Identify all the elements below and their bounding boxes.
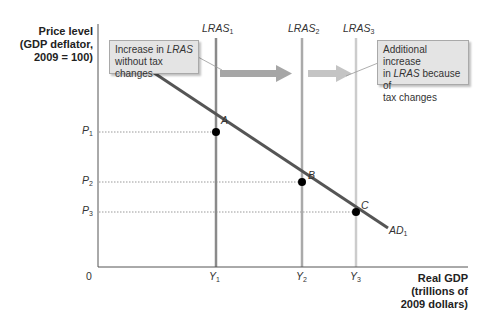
y1-label: Y1 bbox=[209, 270, 220, 283]
ad1-curve bbox=[130, 57, 388, 228]
callout2-leader bbox=[346, 63, 378, 76]
callout1-leader bbox=[198, 57, 222, 70]
p3-label: P3 bbox=[82, 204, 93, 217]
point-a bbox=[212, 128, 220, 136]
callout2-line1: Additional increase bbox=[383, 44, 463, 68]
y-axis-title-line3: 2009 = 100) bbox=[0, 51, 93, 64]
y2-label: Y2 bbox=[296, 270, 307, 283]
y3-label: Y3 bbox=[350, 270, 361, 283]
point-a-label: A bbox=[221, 114, 228, 126]
x-axis-title: Real GDP (trillions of 2009 dollars) bbox=[370, 272, 468, 311]
callout2-line3: tax changes bbox=[383, 92, 463, 104]
point-b-label: B bbox=[308, 169, 315, 181]
lras2-label: LRAS2 bbox=[288, 22, 319, 35]
lras-tax-diagram: Price level (GDP deflator, 2009 = 100) R… bbox=[0, 0, 488, 315]
callout1-line2: without tax changes bbox=[115, 56, 193, 80]
point-c bbox=[352, 208, 360, 216]
y-axis-title: Price level (GDP deflator, 2009 = 100) bbox=[0, 25, 93, 64]
p1-label: P1 bbox=[82, 124, 93, 137]
x-axis-title-line1: Real GDP bbox=[370, 272, 468, 285]
callout-increase-without-tax: Increase in LRAS without tax changes bbox=[109, 40, 199, 74]
x-axis-title-line2: (trillions of bbox=[370, 285, 468, 298]
point-c-label: C bbox=[361, 199, 369, 211]
lras3-label: LRAS3 bbox=[343, 22, 374, 35]
lras1-label: LRAS1 bbox=[202, 22, 233, 35]
x-axis-title-line3: 2009 dollars) bbox=[370, 298, 468, 311]
callout2-line2: in LRAS because of bbox=[383, 68, 463, 92]
arrow-lras2-to-lras3 bbox=[308, 65, 352, 82]
p2-label: P2 bbox=[82, 174, 93, 187]
callout1-line1: Increase in LRAS bbox=[115, 44, 193, 56]
callout-additional-increase-tax: Additional increase in LRAS because of t… bbox=[377, 40, 469, 85]
point-b bbox=[298, 178, 306, 186]
y-axis-title-line1: Price level bbox=[0, 25, 93, 38]
arrow-lras1-to-lras2 bbox=[220, 65, 292, 82]
origin-label: 0 bbox=[86, 270, 92, 282]
ad1-label: AD1 bbox=[389, 224, 408, 237]
y-axis-title-line2: (GDP deflator, bbox=[0, 38, 93, 51]
